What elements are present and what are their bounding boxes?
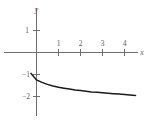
y-tick-label-1: 1: [25, 26, 29, 35]
x-tick-label-1: 1: [57, 39, 61, 48]
chart-screenshot: 1 2 3 4 1 −1 −2 y x: [0, 0, 147, 123]
x-tick-label-3: 3: [101, 39, 105, 48]
x-tick-label-2: 2: [79, 39, 83, 48]
x-tick-label-4: 4: [123, 39, 127, 48]
y-tick-label-neg2: −2: [22, 92, 30, 101]
y-axis-label: y: [34, 5, 39, 14]
data-curve-line: [31, 73, 136, 95]
cartesian-plot: 1 2 3 4 1 −1 −2 y x: [0, 0, 147, 123]
y-tick-label-neg1: −1: [22, 70, 30, 79]
x-axis-label: x: [139, 48, 144, 57]
